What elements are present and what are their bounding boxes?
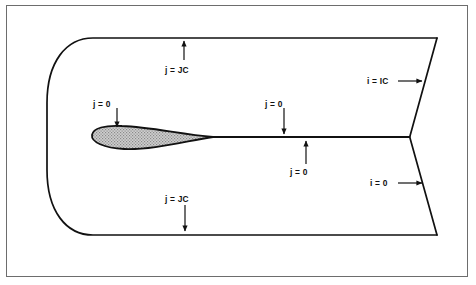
upper-outflow-boundary [410,38,437,136]
label-top-farfield: j = JC [165,66,189,74]
lower-outflow-boundary [410,138,437,235]
airfoil-body [92,126,213,149]
label-wake-cut-upper: j = 0 [265,100,283,108]
label-wake-cut-lower: j = 0 [290,168,308,176]
figure-root: j = JC j = 0 j = 0 j = 0 i = IC i = 0 j … [0,0,476,285]
label-outflow-upper: i = IC [367,77,388,85]
c-grid-domain-diagram [0,0,476,285]
label-bottom-farfield: j = JC [165,195,189,203]
label-outflow-lower: i = 0 [370,179,388,187]
label-airfoil-surface: j = 0 [93,100,111,108]
